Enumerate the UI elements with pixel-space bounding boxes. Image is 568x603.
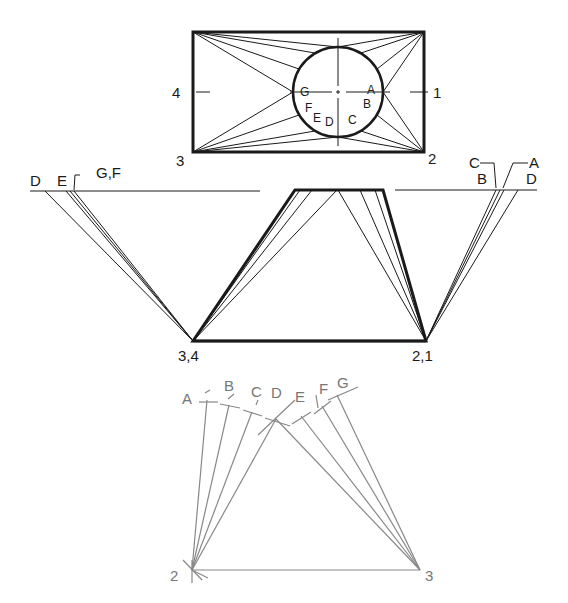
dev-label-a: A [182,390,192,407]
top-view: 4 1 3 2 G A B F E D C [172,32,441,169]
tl-label-b-right: B [477,170,487,187]
dev-label-g: G [337,374,349,391]
circle-label-b: B [363,97,371,111]
circle-label-a: A [367,83,375,97]
front-view: D E G,F C B A D 3,4 2,1 [30,154,539,364]
tl-label-d-right: D [526,170,537,187]
tl-label-a-right: A [529,154,539,171]
tl-label-d-left: D [30,172,41,189]
dev-label-2: 2 [170,567,178,584]
right-true-length-lines [426,190,518,341]
tl-label-gf: G,F [96,164,121,181]
base-label-21: 2,1 [412,347,433,364]
development-lines [192,395,420,570]
corner-label-3: 3 [176,152,184,169]
dev-label-d: D [271,384,282,401]
left-true-length-lines [45,191,193,341]
tl-label-e-left: E [57,172,67,189]
circle-label-d: D [325,115,334,129]
dev-label-3: 3 [425,567,433,584]
circle-label-c: C [348,113,357,127]
leader-gf [74,175,80,190]
leader-a [503,163,528,188]
circle-label-g: G [300,85,309,99]
corner-label-1: 1 [433,84,441,101]
arc-tick-marks [183,387,358,583]
development-layout: A B C D E F G 2 3 [170,374,433,584]
front-view-outline [193,190,426,341]
dev-label-b: B [224,377,234,394]
base-label-34: 3,4 [178,347,199,364]
front-view-element-lines [193,190,426,341]
dev-label-e: E [295,388,305,405]
drawing-canvas: 4 1 3 2 G A B F E D C [0,0,568,603]
tl-label-c-right: C [469,154,480,171]
corner-label-4: 4 [172,84,180,101]
circle-label-f: F [305,101,312,115]
circle-label-e: E [313,111,321,125]
dev-label-f: F [319,380,328,397]
development-labels: A B C D E F G 2 3 [170,374,433,584]
dev-label-c: C [251,383,262,400]
corner-label-2: 2 [428,150,436,167]
